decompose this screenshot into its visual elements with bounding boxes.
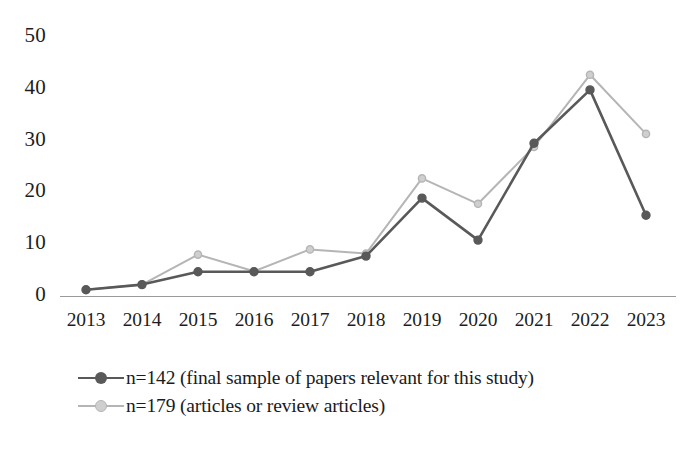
y-axis-tick-label: 0 (2, 284, 46, 305)
data-point-marker (642, 211, 650, 219)
x-axis-tick-label: 2021 (506, 310, 562, 330)
data-point-marker (586, 86, 594, 94)
x-axis-tick-label: 2016 (226, 310, 282, 330)
data-point-marker (418, 175, 425, 182)
y-axis-tick-label: 30 (2, 129, 46, 150)
data-point-marker (194, 251, 201, 258)
legend-item-label: n=142 (final sample of papers relevant f… (126, 367, 534, 389)
data-point-marker (250, 268, 258, 276)
data-point-marker (306, 246, 313, 253)
y-axis-tick-label: 40 (2, 77, 46, 98)
chart-legend: n=142 (final sample of papers relevant f… (0, 364, 698, 420)
data-point-marker (418, 194, 426, 202)
data-point-marker (642, 130, 649, 137)
x-axis-tick-label: 2014 (114, 310, 170, 330)
data-point-marker (82, 286, 90, 294)
plot-area: 50403020100 2013201420152016201720182019… (0, 0, 698, 340)
legend-item: n=142 (final sample of papers relevant f… (0, 364, 698, 392)
data-point-marker (194, 268, 202, 276)
x-axis-tick-label: 2023 (618, 310, 674, 330)
data-point-marker (138, 281, 146, 289)
x-axis-tick-label: 2013 (58, 310, 114, 330)
line-chart: 50403020100 2013201420152016201720182019… (0, 0, 698, 453)
data-point-marker (474, 200, 481, 207)
legend-dot-light (95, 400, 107, 412)
x-axis-tick-label: 2017 (282, 310, 338, 330)
x-axis-tick-label: 2019 (394, 310, 450, 330)
y-axis-tick-label: 50 (2, 25, 46, 46)
series-layer (82, 71, 650, 294)
data-point-marker (306, 268, 314, 276)
x-axis-tick-label: 2015 (170, 310, 226, 330)
legend-dot-dark (95, 372, 107, 384)
data-point-marker (586, 71, 593, 78)
x-axis-tick-label: 2018 (338, 310, 394, 330)
x-axis-tick-label: 2020 (450, 310, 506, 330)
plot-svg (0, 0, 698, 340)
legend-item: n=179 (articles or review articles) (0, 392, 698, 420)
legend-item-label: n=179 (articles or review articles) (126, 395, 385, 417)
y-axis-tick-label: 10 (2, 232, 46, 253)
y-axis-tick-label: 20 (2, 180, 46, 201)
legend-marker-icon (78, 370, 124, 386)
data-point-marker (530, 139, 538, 147)
data-point-marker (474, 236, 482, 244)
x-axis-tick-label: 2022 (562, 310, 618, 330)
legend-marker-icon (78, 398, 124, 414)
data-point-marker (362, 252, 370, 260)
